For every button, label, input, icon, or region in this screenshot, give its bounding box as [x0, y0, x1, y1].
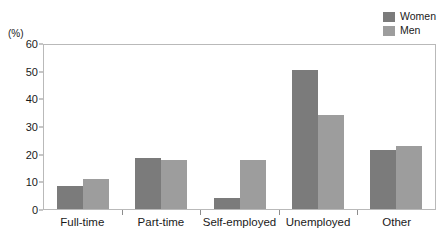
- bar-group: [279, 45, 357, 209]
- y-axis-tick-label: 10: [26, 176, 38, 188]
- chart-legend: Women Men: [383, 11, 436, 36]
- y-axis-tick-label: 0: [32, 204, 38, 216]
- plot-wrapper: 0102030405060: [43, 44, 436, 210]
- bar-group: [200, 45, 278, 209]
- x-axis-tick-mark: [122, 210, 123, 215]
- bar-women-unemployed: [292, 70, 318, 209]
- bar-men-part-time: [161, 160, 187, 209]
- x-axis-labels: Full-timePart-timeSelf-employedUnemploye…: [43, 216, 436, 234]
- bar-women-other: [370, 150, 396, 209]
- bar-group: [357, 45, 435, 209]
- x-axis-label-other: Other: [357, 216, 436, 234]
- bar-men-other: [396, 146, 422, 209]
- y-axis-tick-mark: [39, 154, 43, 155]
- chart-title: [0, 0, 444, 2]
- legend-swatch-men: [383, 26, 395, 36]
- bar-men-full-time: [83, 179, 109, 209]
- legend-item-men: Men: [383, 25, 436, 36]
- y-axis-tick-label: 50: [26, 66, 38, 78]
- bar-women-part-time: [135, 158, 161, 209]
- y-axis-tick-mark: [39, 99, 43, 100]
- bar-groups: [44, 45, 435, 209]
- bar-group: [122, 45, 200, 209]
- bar-women-full-time: [57, 186, 83, 209]
- y-axis-tick-label: 20: [26, 149, 38, 161]
- x-axis-label-full-time: Full-time: [43, 216, 122, 234]
- x-axis-tick-mark: [279, 210, 280, 215]
- legend-item-women: Women: [383, 11, 436, 22]
- y-axis-tick-mark: [39, 127, 43, 128]
- bar-group: [44, 45, 122, 209]
- legend-swatch-women: [383, 12, 395, 22]
- legend-label-men: Men: [400, 25, 420, 36]
- x-axis-tick-mark: [200, 210, 201, 215]
- y-axis-tick-mark: [39, 182, 43, 183]
- y-axis-tick-label: 60: [26, 38, 38, 50]
- x-axis-label-unemployed: Unemployed: [279, 216, 358, 234]
- y-axis-tick-mark: [39, 71, 43, 72]
- y-axis-tick-mark: [39, 44, 43, 45]
- y-axis-tick-label: 40: [26, 93, 38, 105]
- x-axis-tick-mark: [357, 210, 358, 215]
- bar-women-self-employed: [214, 198, 240, 209]
- legend-label-women: Women: [400, 11, 436, 22]
- x-axis-label-self-employed: Self-employed: [200, 216, 279, 234]
- bar-men-self-employed: [240, 160, 266, 209]
- y-axis-tick-mark: [39, 210, 43, 211]
- bar-men-unemployed: [318, 115, 344, 209]
- y-axis-tick-label: 30: [26, 121, 38, 133]
- x-axis-label-part-time: Part-time: [122, 216, 201, 234]
- y-axis-unit-label: (%): [8, 28, 24, 39]
